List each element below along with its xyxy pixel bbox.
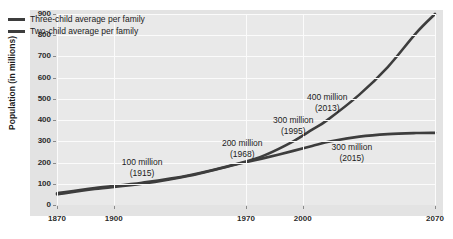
x-tick-label: 1970 [237,215,255,223]
y-tick-mark [53,120,56,121]
legend-label: Two-child average per family [30,26,138,36]
clipped-caption: · · · · [6,0,23,3]
y-tick-mark [53,99,56,100]
annotation-year: (2015) [332,153,373,164]
data-annotation: 300 million(1995) [273,115,314,137]
legend-item[interactable]: Two-child average per family [8,25,145,37]
y-tick-mark [53,141,56,142]
x-tick-mark [246,206,247,209]
y-tick-label: 300 [27,137,51,145]
annotation-year: (1995) [273,126,314,137]
x-tick-label: 2070 [426,215,444,223]
gridline-vertical [435,14,436,205]
chart-figure: · · · · 0100200300400500600700800900 187… [0,0,453,239]
x-tick-mark [435,206,436,209]
y-tick-label: 700 [27,52,51,60]
data-annotation: 200 million(1968) [222,138,263,160]
x-tick-label: 2000 [294,215,312,223]
annotation-year: (1915) [122,168,163,179]
y-axis-title: Population (in millions) [7,23,17,143]
y-tick-label: 100 [27,180,51,188]
legend-label: Three-child average per family [30,14,145,24]
x-tick-label: 1900 [105,215,123,223]
annotation-value: 400 million [307,92,348,103]
plot-area [57,14,435,205]
annotation-value: 200 million [222,138,263,149]
legend-item[interactable]: Three-child average per family [8,13,145,25]
gridline-vertical [114,14,115,205]
x-tick-mark [114,206,115,209]
y-tick-mark [53,78,56,79]
annotation-value: 300 million [332,142,373,153]
legend-swatch-icon [8,30,25,33]
annotation-year: (2013) [307,103,348,114]
y-tick-mark [53,163,56,164]
legend-swatch-icon [8,18,25,21]
data-annotation: 100 million(1915) [122,157,163,179]
y-tick-mark [53,184,56,185]
data-annotation: 400 million(2013) [307,92,348,114]
y-tick-label: 600 [27,74,51,82]
y-tick-label: 500 [27,95,51,103]
x-tick-mark [57,206,58,209]
annotation-year: (1968) [222,149,263,160]
y-tick-label: 400 [27,116,51,124]
annotation-value: 300 million [273,115,314,126]
y-tick-mark [53,205,56,206]
y-tick-label: 0 [27,201,51,209]
y-tick-mark [53,56,56,57]
data-annotation: 300 million(2015) [332,142,373,164]
gridline-vertical [303,14,304,205]
x-tick-label: 1870 [48,215,66,223]
y-tick-label: 200 [27,159,51,167]
gridline-vertical [246,14,247,205]
x-tick-mark [303,206,304,209]
chart-legend: Three-child average per familyTwo-child … [8,13,145,37]
gridline-vertical [57,14,58,205]
annotation-value: 100 million [122,157,163,168]
